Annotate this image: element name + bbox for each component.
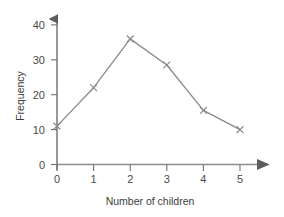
data-series-line [57, 39, 240, 130]
x-axis-ticks [57, 165, 240, 172]
x-axis-tick-labels: 0 1 2 3 4 5 [54, 173, 243, 185]
y-tick-label-10: 10 [33, 124, 45, 136]
y-tick-label-30: 30 [33, 54, 45, 66]
y-axis-ticks [51, 25, 57, 165]
data-point-marker [90, 84, 97, 91]
data-point-marker [237, 126, 244, 133]
line-chart: 0 10 20 30 40 0 1 2 3 4 5 Number of [0, 0, 284, 217]
x-tick-label-3: 3 [164, 173, 170, 185]
y-axis-title: Frequency [14, 70, 26, 120]
x-tick-label-2: 2 [127, 173, 133, 185]
y-tick-label-40: 40 [33, 19, 45, 31]
data-point-markers [54, 35, 244, 133]
x-tick-label-4: 4 [200, 173, 206, 185]
chart-canvas: 0 10 20 30 40 0 1 2 3 4 5 Number of [0, 0, 284, 217]
data-point-marker [127, 35, 134, 42]
data-point-marker [163, 62, 170, 69]
y-axis-tick-labels: 0 10 20 30 40 [33, 19, 45, 171]
x-tick-label-0: 0 [54, 173, 60, 185]
x-tick-label-1: 1 [91, 173, 97, 185]
x-axis-title: Number of children [106, 195, 195, 207]
y-tick-label-20: 20 [33, 89, 45, 101]
y-tick-label-0: 0 [39, 159, 45, 171]
x-tick-label-5: 5 [237, 173, 243, 185]
data-point-marker [200, 107, 207, 114]
